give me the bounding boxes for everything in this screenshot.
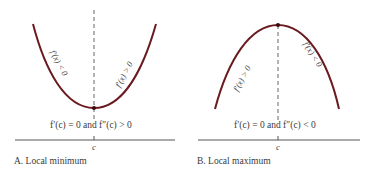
panel-b-right-label: f′(x) < 0: [301, 40, 325, 70]
panel-a-caption: A. Local minimum: [14, 156, 87, 166]
panel-a-condition: f′(c) = 0 and f″(c) > 0: [49, 120, 133, 130]
panel-a-c-label: c: [92, 142, 96, 152]
panel-b-caption: B. Local maximum: [197, 156, 271, 166]
panel-a-curve: [33, 24, 156, 108]
panel-b-c-label: c: [276, 142, 280, 152]
panel-b-max-point: [276, 23, 280, 27]
panel-b-curve: [215, 25, 339, 109]
panel-b-condition: f′(c) = 0 and f″(c) < 0: [233, 120, 317, 130]
panel-a-min-point: [92, 106, 96, 110]
panel-a-right-label: f′(x) > 0: [113, 59, 135, 89]
panel-b-left-label: f′(x) > 0: [231, 63, 253, 93]
diagram-canvas: f′(x) < 0 f′(x) > 0 f′(x) > 0 f′(x) < 0: [0, 0, 376, 171]
